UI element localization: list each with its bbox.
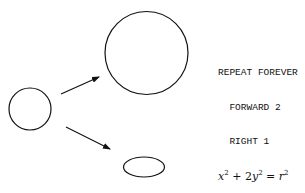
eq-plus: + [229, 170, 245, 183]
large-circle [105, 12, 188, 95]
eq-exp: 2 [284, 169, 288, 177]
ellipse-equation: x2 + 2y2 = r2 [218, 170, 289, 183]
eq-equals: = [263, 170, 279, 183]
code-block: REPEAT FOREVER FORWARD 2 RIGHT 1 [218, 44, 298, 159]
eq-coef: 2 [245, 170, 252, 183]
arrow-to-large-circle [61, 77, 99, 94]
code-line: REPEAT FOREVER [218, 67, 298, 79]
ellipse [124, 157, 165, 177]
code-line: FORWARD 2 [218, 102, 298, 114]
source-circle [9, 88, 51, 130]
arrow-to-ellipse [66, 127, 110, 149]
code-line: RIGHT 1 [218, 136, 298, 148]
